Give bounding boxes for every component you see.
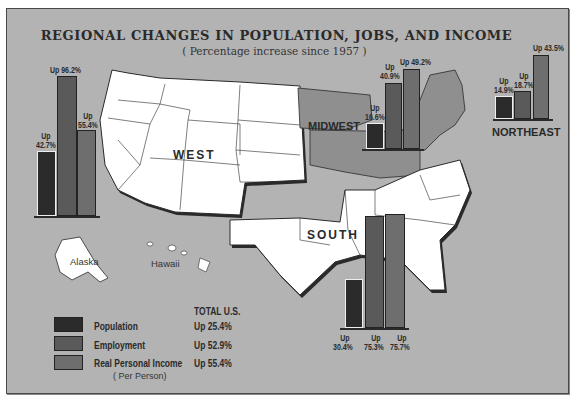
south-employment-label: Up75.3% (364, 334, 384, 352)
northeast-employment-bar (514, 91, 531, 119)
midwest-baseline (362, 149, 424, 151)
legend-swatch-income (54, 355, 83, 370)
midwest-employment-label: Up40.9% (380, 63, 400, 81)
west-region (100, 70, 305, 215)
legend-label-employment: Employment (94, 340, 145, 351)
northeast-income-label: Up 43.5% (533, 44, 564, 53)
midwest-employment-bar (385, 83, 402, 149)
legend-total-employment: Up 52.9% (194, 340, 232, 351)
legend-total-income: Up 55.4% (194, 358, 232, 369)
legend-swatch-population (54, 317, 83, 332)
west-income-label: Up55.4% (78, 112, 98, 130)
region-label-northeast: NORTHEAST (492, 126, 560, 138)
region-label-midwest: MIDWEST (308, 120, 360, 132)
legend-label-income: Real Personal Income (94, 358, 182, 369)
legend-total-header: TOTAL U.S. (194, 306, 240, 317)
west-baseline (34, 216, 100, 218)
west-employment-bar (57, 76, 77, 216)
south-baseline (340, 328, 409, 330)
midwest-income-label: Up 49.2% (400, 58, 431, 67)
legend-total-population: Up 25.4% (194, 321, 232, 332)
west-population-bar (37, 151, 56, 216)
legend-swatch-employment (54, 336, 83, 351)
south-employment-bar (365, 216, 384, 328)
midwest-income-bar (403, 69, 420, 149)
northeast-population-bar (495, 96, 513, 119)
midwest-population-bar (366, 123, 384, 149)
west-income-bar (77, 130, 96, 216)
region-label-west: WEST (173, 148, 216, 162)
south-income-bar (385, 214, 405, 328)
legend-sublabel-income: ( Per Person) (113, 371, 167, 381)
south-population-label: Up30.4% (333, 334, 353, 352)
west-population-label: Up42.7% (36, 132, 56, 150)
region-label-south: SOUTH (307, 228, 359, 242)
alaska-label: Alaska (70, 256, 99, 267)
west-employment-label: Up 96.2% (50, 66, 81, 75)
northeast-income-bar (533, 55, 549, 119)
south-income-label: Up75.7% (390, 334, 410, 352)
legend-label-population: Population (94, 321, 138, 332)
northeast-population-label: Up14.9% (494, 77, 514, 95)
south-population-bar (345, 279, 363, 328)
northeast-employment-label: Up18.7% (514, 72, 534, 90)
midwest-population-label: Up16.6% (365, 104, 385, 122)
hawaii-label: Hawaii (151, 258, 180, 269)
northeast-baseline (493, 119, 553, 121)
